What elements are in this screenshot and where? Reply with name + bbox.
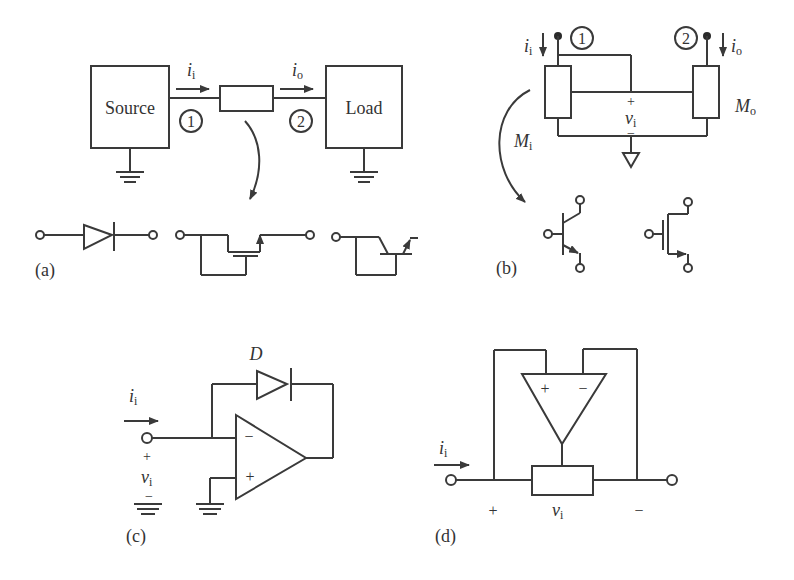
minus-sign: − — [634, 502, 643, 519]
panel-a-label: (a) — [35, 260, 55, 281]
panel-c: D − + ii + vi − (c) — [124, 344, 333, 547]
diode-label: D — [249, 344, 263, 364]
panel-b: ii io 1 2 + vi − Mo Mi — [496, 27, 756, 279]
input-current-label: ii — [524, 36, 533, 58]
diode-icon — [36, 222, 157, 251]
switch-element — [220, 86, 273, 111]
panel-d-label: (d) — [435, 526, 456, 547]
port-2-marker: 2 — [290, 110, 312, 132]
source-label: Source — [105, 98, 155, 118]
mosfet-switch-icon — [176, 231, 314, 275]
svg-text:2: 2 — [682, 30, 690, 47]
output-current-label: io — [292, 60, 303, 82]
diode-icon — [257, 371, 287, 399]
voltage-label: vi — [552, 500, 564, 522]
input-terminal — [142, 433, 152, 443]
bjt-switch-icon — [332, 233, 418, 275]
npn-bjt-icon — [544, 196, 584, 272]
svg-text:2: 2 — [297, 113, 305, 130]
input-current-label: ii — [439, 438, 448, 460]
port-1-marker: 1 — [571, 27, 593, 49]
svg-text:1: 1 — [578, 30, 586, 47]
input-module-block — [545, 66, 571, 118]
opamp-noninverting-sign: + — [245, 468, 254, 485]
opamp-noninverting-sign: + — [540, 380, 549, 397]
voltage-label: vi — [141, 467, 153, 489]
load-block: Load — [326, 66, 402, 182]
ground-icon — [134, 504, 162, 514]
plus-sign: + — [488, 502, 497, 519]
ground-icon — [350, 172, 378, 182]
curved-arrow-icon — [245, 121, 259, 199]
switch-element — [532, 466, 593, 495]
input-terminal — [446, 475, 456, 485]
minus-sign: − — [627, 126, 635, 141]
opamp-icon — [522, 374, 606, 444]
input-module-label: Mi — [513, 131, 533, 153]
source-block: Source — [91, 66, 169, 182]
load-label: Load — [346, 98, 383, 118]
panel-c-label: (c) — [126, 526, 146, 547]
minus-sign: − — [145, 489, 153, 504]
port-2-marker: 2 — [675, 27, 697, 49]
input-current-label: ii — [129, 386, 138, 408]
input-current-label: ii — [187, 60, 196, 82]
panel-d: + − ii + vi − (d) — [434, 349, 677, 547]
panel-a: Source ii io 1 2 — [35, 60, 418, 281]
circuit-figure: Source ii io 1 2 — [0, 0, 794, 580]
panel-b-label: (b) — [496, 258, 517, 279]
ground-icon — [196, 504, 224, 514]
ground-icon — [116, 172, 144, 182]
plus-sign: + — [143, 449, 151, 464]
output-module-block — [693, 66, 719, 118]
opamp-inverting-sign: − — [578, 380, 587, 397]
opamp-inverting-sign: − — [244, 428, 253, 445]
output-module-label: Mo — [734, 96, 756, 118]
plus-sign: + — [627, 94, 635, 109]
n-mosfet-icon — [645, 198, 692, 272]
svg-text:1: 1 — [187, 113, 195, 130]
output-current-label: io — [731, 36, 742, 58]
output-terminal — [667, 475, 677, 485]
port-1-marker: 1 — [180, 110, 202, 132]
reference-ground-icon — [623, 153, 639, 167]
